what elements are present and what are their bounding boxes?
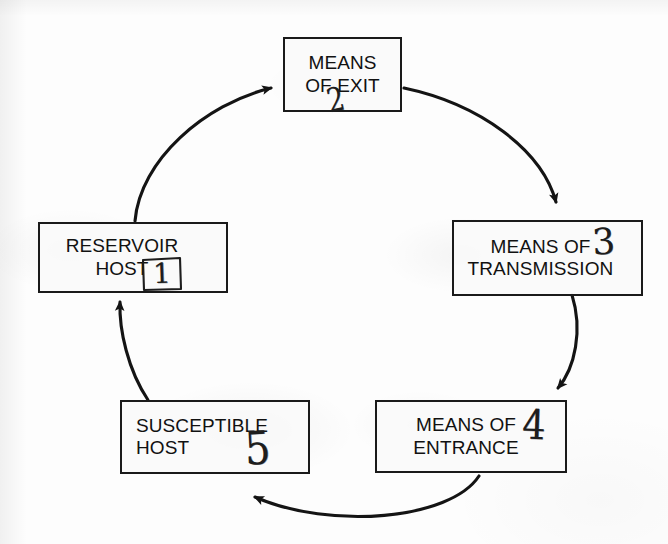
node-means-of-entrance: MEANS OF ENTRANCE <box>375 400 567 473</box>
chain-of-infection-diagram: MEANS OF EXIT 2 MEANS OF TRANSMISSION 3 … <box>0 0 668 544</box>
node-reservoir-host-label: RESERVOIR HOST <box>62 235 182 280</box>
arrow-entrance-to-susceptible <box>255 476 479 517</box>
node-reservoir-host: RESERVOIR HOST <box>38 222 228 293</box>
arrow-reservoir-to-exit <box>135 88 271 221</box>
arrow-exit-to-transmission <box>404 88 556 202</box>
node-means-of-transmission: MEANS OF TRANSMISSION <box>452 220 643 296</box>
node-means-of-entrance-label: MEANS OF ENTRANCE <box>409 414 522 459</box>
node-susceptible-host: SUSCEPTIBLE HOST <box>120 400 310 474</box>
node-means-of-exit: MEANS OF EXIT <box>283 37 402 112</box>
node-means-of-exit-label: MEANS OF EXIT <box>301 52 384 97</box>
node-means-of-transmission-label: MEANS OF TRANSMISSION <box>464 236 618 281</box>
node-susceptible-host-label: SUSCEPTIBLE HOST <box>132 415 272 460</box>
arrow-transmission-to-entrance <box>558 295 577 388</box>
arrow-susceptible-to-reservoir <box>120 302 148 400</box>
